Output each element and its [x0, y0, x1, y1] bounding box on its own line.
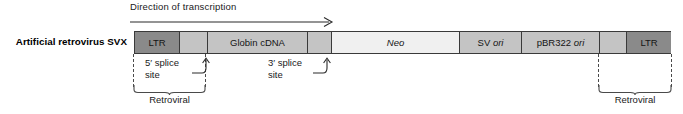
three-prime-splice-note: 3′ splice site — [268, 57, 302, 80]
construct-bar: LTRGlobin cDNANeoSV oripBR322 oriLTR — [134, 31, 671, 54]
segment-sv-ori: SV ori — [459, 32, 521, 53]
right-retroviral-caption: Retroviral — [598, 94, 672, 105]
segment-neo: Neo — [331, 32, 459, 53]
five-prime-splice-line2: site — [145, 69, 179, 81]
segment-globin-cdna: Globin cDNA — [207, 32, 307, 53]
five-prime-splice-line1: 5′ splice — [145, 57, 179, 69]
segment-label: LTR — [640, 37, 657, 48]
right-retroviral-bracket — [598, 54, 672, 87]
segment-ltr: LTR — [135, 32, 179, 53]
segment-spacer-7 — [599, 32, 626, 53]
segment-spacer-1 — [179, 32, 207, 53]
segment-label: Globin cDNA — [230, 37, 285, 48]
three-prime-splice-hook-arrow-icon — [311, 55, 333, 77]
transcription-arrow-icon — [130, 14, 335, 28]
five-prime-splice-note: 5′ splice site — [145, 57, 179, 80]
five-prime-splice-hook-arrow-icon — [190, 55, 212, 77]
segment-label: pBR322 ori — [537, 37, 585, 48]
construct-name-label: Artificial retrovirus SVX — [16, 36, 127, 47]
three-prime-splice-line1: 3′ splice — [268, 57, 302, 69]
segment-pbr322-ori: pBR322 ori — [521, 32, 599, 53]
segment-spacer-3 — [307, 32, 331, 53]
segment-label: LTR — [148, 37, 165, 48]
segment-label: Neo — [387, 37, 404, 48]
retrovirus-svx-diagram: Direction of transcription Artificial re… — [0, 0, 683, 114]
left-retroviral-caption: Retroviral — [133, 94, 206, 105]
three-prime-splice-line2: site — [268, 69, 302, 81]
segment-ltr: LTR — [626, 32, 671, 53]
segment-label: SV ori — [478, 37, 504, 48]
transcription-direction-label: Direction of transcription — [130, 1, 236, 12]
